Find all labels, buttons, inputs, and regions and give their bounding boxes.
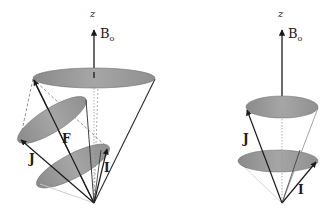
vector-coupling-diagram: z Bo F J I [0,0,335,220]
right-z-axis-label: z [277,8,284,19]
right-diagram: z Bo J I [238,8,318,203]
left-j-label: J [28,152,35,166]
left-z-axis-label: z [89,8,96,19]
right-j-label: J [242,132,249,146]
right-i-precession-ellipse [238,150,318,172]
right-i-label: I [298,183,304,197]
right-b0-label: Bo [288,26,303,43]
left-f-label: F [62,132,71,146]
left-cone-edge-right [94,79,155,203]
left-b0-label: Bo [100,26,115,43]
left-diagram: z Bo F J I [12,8,155,203]
left-i-label: I [104,161,110,175]
